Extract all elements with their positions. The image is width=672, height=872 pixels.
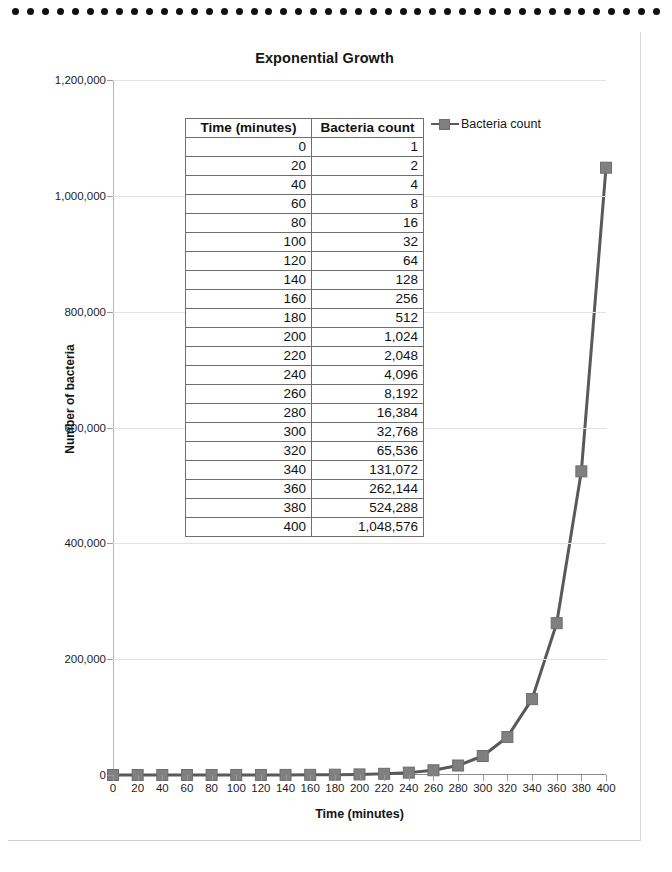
cell-time: 0 — [186, 138, 312, 157]
cell-count: 256 — [312, 290, 424, 309]
binding-hole — [429, 8, 436, 15]
binding-hole — [549, 8, 556, 15]
table-row: 404 — [186, 176, 424, 195]
binding-hole — [310, 8, 317, 15]
cell-time: 300 — [186, 423, 312, 442]
x-axis-tick-label: 60 — [181, 782, 194, 794]
binding-hole — [280, 8, 287, 15]
binding-hole — [414, 8, 421, 15]
x-axis-tick-label: 320 — [498, 782, 517, 794]
binding-hole — [519, 8, 526, 15]
binding-hole — [355, 8, 362, 15]
cell-count: 64 — [312, 252, 424, 271]
binding-hole — [638, 8, 645, 15]
y-axis-tick — [107, 543, 113, 544]
data-point-marker — [453, 760, 464, 771]
x-axis-tick-label: 280 — [449, 782, 468, 794]
binding-hole — [578, 8, 585, 15]
cell-time: 60 — [186, 195, 312, 214]
y-axis-tick — [107, 428, 113, 429]
y-axis-tick — [107, 659, 113, 660]
x-axis-tick — [286, 775, 287, 781]
x-axis-tick — [384, 775, 385, 781]
y-axis-tick-label: 1,200,000 — [55, 74, 106, 86]
x-axis-tick-label: 220 — [375, 782, 394, 794]
binding-hole — [489, 8, 496, 15]
table-row: 8016 — [186, 214, 424, 233]
chart-title: Exponential Growth — [8, 50, 641, 66]
x-axis-tick — [483, 775, 484, 781]
table-row: 380524,288 — [186, 499, 424, 518]
x-axis-tick-label: 340 — [522, 782, 541, 794]
cell-count: 65,536 — [312, 442, 424, 461]
binding-hole — [265, 8, 272, 15]
x-axis-tick — [212, 775, 213, 781]
table-row: 2404,096 — [186, 366, 424, 385]
x-axis-tick-label: 300 — [473, 782, 492, 794]
cell-count: 16,384 — [312, 404, 424, 423]
table-row: 28016,384 — [186, 404, 424, 423]
x-axis-tick-label: 240 — [399, 782, 418, 794]
binding-hole — [57, 8, 64, 15]
table-row: 180512 — [186, 309, 424, 328]
binding-hole — [400, 8, 407, 15]
x-axis-tick — [236, 775, 237, 781]
table-row: 202 — [186, 157, 424, 176]
cell-count: 1,048,576 — [312, 518, 424, 537]
table-row: 608 — [186, 195, 424, 214]
y-axis-tick-labels: 0200,000400,000600,000800,0001,000,0001,… — [28, 80, 106, 775]
binding-hole — [146, 8, 153, 15]
data-point-marker — [527, 694, 538, 705]
cell-count: 8,192 — [312, 385, 424, 404]
x-axis-tick — [162, 775, 163, 781]
data-table: Time (minutes) Bacteria count 0120240460… — [185, 118, 424, 537]
chart-legend: Bacteria count — [431, 117, 541, 131]
x-axis-tick — [532, 775, 533, 781]
data-point-marker — [502, 732, 513, 743]
cell-count: 2,048 — [312, 347, 424, 366]
x-axis-tick-label: 0 — [110, 782, 116, 794]
y-axis-tick — [107, 80, 113, 81]
binding-hole — [623, 8, 630, 15]
binding-hole — [221, 8, 228, 15]
x-axis-tick — [113, 775, 114, 781]
cell-time: 220 — [186, 347, 312, 366]
cell-time: 260 — [186, 385, 312, 404]
cell-count: 8 — [312, 195, 424, 214]
cell-count: 131,072 — [312, 461, 424, 480]
binding-hole — [608, 8, 615, 15]
cell-count: 2 — [312, 157, 424, 176]
cell-time: 20 — [186, 157, 312, 176]
x-axis-tick — [409, 775, 410, 781]
table-row: 2608,192 — [186, 385, 424, 404]
chart-frame: Exponential Growth Number of bacteria 02… — [8, 32, 641, 841]
cell-count: 1,024 — [312, 328, 424, 347]
table-row: 160256 — [186, 290, 424, 309]
x-axis-tick — [261, 775, 262, 781]
x-axis-tick-label: 200 — [350, 782, 369, 794]
binding-hole — [206, 8, 213, 15]
cell-time: 100 — [186, 233, 312, 252]
cell-time: 180 — [186, 309, 312, 328]
table-row: 340131,072 — [186, 461, 424, 480]
legend-label: Bacteria count — [461, 117, 541, 131]
cell-count: 524,288 — [312, 499, 424, 518]
y-axis-tick-label: 1,000,000 — [55, 190, 106, 202]
binding-hole — [131, 8, 138, 15]
cell-time: 80 — [186, 214, 312, 233]
x-axis-tick-label: 120 — [251, 782, 270, 794]
binding-hole — [161, 8, 168, 15]
cell-count: 262,144 — [312, 480, 424, 499]
table-header-count: Bacteria count — [312, 119, 424, 138]
binding-hole — [340, 8, 347, 15]
cell-time: 120 — [186, 252, 312, 271]
table-row: 30032,768 — [186, 423, 424, 442]
binding-hole — [593, 8, 600, 15]
binding-hole — [12, 8, 19, 15]
x-axis-tick-label: 360 — [547, 782, 566, 794]
cell-time: 160 — [186, 290, 312, 309]
binding-hole — [191, 8, 198, 15]
binding-hole — [474, 8, 481, 15]
cell-count: 16 — [312, 214, 424, 233]
cell-time: 240 — [186, 366, 312, 385]
